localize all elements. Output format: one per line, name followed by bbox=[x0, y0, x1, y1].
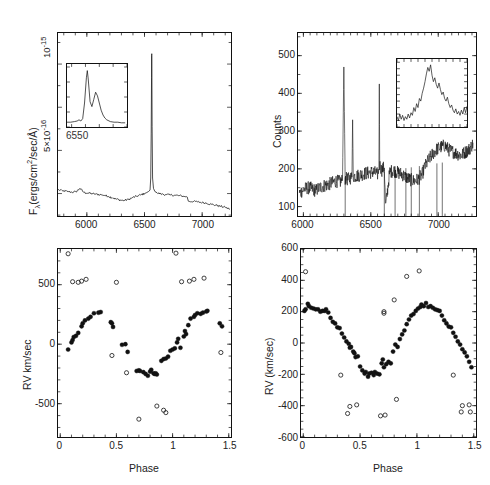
xtick-label: 6000 bbox=[75, 220, 97, 230]
xtick-label: 6500 bbox=[360, 220, 382, 230]
panel-bottom-left-rv bbox=[57, 248, 232, 438]
xtick-label: 0 bbox=[300, 441, 306, 451]
ytick-label: -200 bbox=[260, 370, 298, 380]
xtick-label: 1 bbox=[414, 441, 420, 451]
inset-wavelength-label: 6550 bbox=[66, 130, 88, 141]
xtick-label: 0.5 bbox=[353, 441, 367, 451]
xtick-label: 1 bbox=[170, 441, 176, 451]
axis-label-flux: Fλ(ergs/cm2/sec/Å) bbox=[26, 127, 41, 215]
xtick-label: 0 bbox=[56, 441, 62, 451]
xtick-label: 1.5 bbox=[468, 441, 482, 451]
inset-halpha-profile bbox=[66, 63, 128, 128]
ytick-label: 500 bbox=[17, 279, 55, 289]
ytick-label: 300 bbox=[257, 126, 295, 136]
ytick-label: -600 bbox=[260, 433, 298, 443]
ytick-label: 600 bbox=[260, 243, 298, 253]
axis-label-phase-left: Phase bbox=[129, 463, 159, 474]
inset-plot-area bbox=[67, 64, 127, 127]
ytick-label-5e-16: 5×10-16 bbox=[40, 120, 52, 152]
panel-bottom-right-rv bbox=[300, 248, 477, 438]
inset-emission-line bbox=[396, 58, 468, 128]
flux-label-units: (ergs/cm bbox=[27, 164, 39, 205]
inset-plot-area bbox=[397, 59, 467, 127]
rv-scatter-plot-area bbox=[301, 249, 476, 437]
xtick-label: 7000 bbox=[428, 220, 450, 230]
ytick-label: 200 bbox=[260, 306, 298, 316]
ytick-label: 400 bbox=[257, 88, 295, 98]
plot-frame bbox=[300, 248, 477, 438]
axis-label-phase-right: Phase bbox=[373, 463, 403, 474]
ytick-label: -500 bbox=[17, 399, 55, 409]
flux-label-lambda: λ bbox=[33, 205, 42, 209]
ytick-label: 500 bbox=[257, 50, 295, 60]
ytick-label: -400 bbox=[260, 401, 298, 411]
ytick-label: 200 bbox=[257, 164, 295, 174]
figure-canvas: Fλ(ergs/cm2/sec/Å) 10-15 5×10-16 6000650… bbox=[0, 0, 490, 485]
flux-label-base: F bbox=[27, 209, 39, 215]
xtick-label: 1.5 bbox=[223, 441, 237, 451]
ytick-label: 0 bbox=[17, 339, 55, 349]
ytick-label: 0 bbox=[260, 338, 298, 348]
ytick-label: 400 bbox=[260, 275, 298, 285]
plot-frame bbox=[57, 248, 232, 438]
rv-scatter-plot-area bbox=[58, 249, 231, 437]
xtick-label: 6500 bbox=[133, 220, 155, 230]
xtick-label: 0.5 bbox=[109, 441, 123, 451]
xtick-label: 7000 bbox=[192, 220, 214, 230]
ytick-label-1e-15: 10-15 bbox=[40, 37, 52, 58]
ytick-label: 100 bbox=[257, 202, 295, 212]
xtick-label: 6000 bbox=[291, 220, 313, 230]
